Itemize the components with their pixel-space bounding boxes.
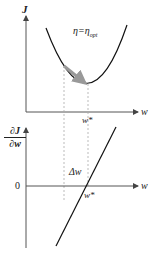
eta-subscript: opt <box>90 32 98 38</box>
eta-annotation: η=ηopt <box>73 26 97 38</box>
zero-label: 0 <box>15 181 20 191</box>
top-minimum-label: w* <box>82 116 93 125</box>
bottom-x-axis-label: w <box>141 181 148 191</box>
top-plot <box>26 16 138 200</box>
partial-j: ∂J <box>4 126 26 138</box>
top-x-axis-label: w <box>141 107 148 117</box>
eta-text: η=η <box>73 25 90 36</box>
gradient-step-arrow <box>64 66 85 83</box>
partial-w: ∂w <box>4 138 26 149</box>
delta-w-label: Δw <box>69 167 82 177</box>
bottom-y-axis-label: ∂J ∂w <box>4 126 26 149</box>
bottom-root-label: w* <box>84 191 95 200</box>
top-y-axis-label: J <box>22 4 28 15</box>
bottom-plot <box>26 127 138 248</box>
